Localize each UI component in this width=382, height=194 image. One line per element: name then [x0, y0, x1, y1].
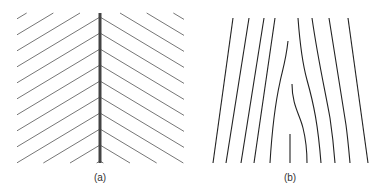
hatch-line-right: [100, 65, 184, 115]
hatch-line-left: [17, 97, 100, 147]
fringe-line: [270, 41, 288, 163]
hatch-line-right: [173, 13, 184, 19]
fringe-line: [312, 18, 335, 163]
hatch-line-left: [17, 33, 100, 83]
fringe-line: [292, 84, 307, 163]
fringe-line: [298, 18, 321, 163]
hatch-line-right: [100, 81, 184, 131]
hatch-line-left: [17, 17, 100, 67]
panel-a-label: (a): [80, 172, 120, 183]
fringe-line: [241, 18, 264, 163]
fringe-line: [329, 18, 350, 163]
fringe-line: [348, 18, 368, 163]
panel-a-herringbone: [17, 13, 184, 163]
hatch-line-right: [100, 49, 184, 99]
hatch-line-right: [100, 17, 184, 67]
panel-b-fork-fringes: [213, 18, 368, 163]
hatch-line-right: [100, 97, 184, 147]
hatch-line-left: [70, 145, 100, 163]
hatch-line-right: [100, 145, 130, 163]
hatch-line-left: [17, 49, 100, 99]
figure-canvas: [0, 0, 382, 194]
hatch-line-left: [43, 129, 100, 163]
hatch-line-right: [120, 13, 184, 51]
hatch-line-left: [17, 13, 27, 19]
hatch-line-left: [17, 81, 100, 131]
hatch-line-left: [17, 113, 100, 163]
hatch-line-left: [17, 13, 80, 51]
hatch-line-left: [17, 65, 100, 115]
panel-b-label: (b): [270, 172, 310, 183]
hatch-line-right: [100, 129, 157, 163]
hatch-line-left: [17, 13, 53, 35]
hatch-line-right: [100, 33, 184, 83]
hatch-line-right: [100, 113, 183, 163]
